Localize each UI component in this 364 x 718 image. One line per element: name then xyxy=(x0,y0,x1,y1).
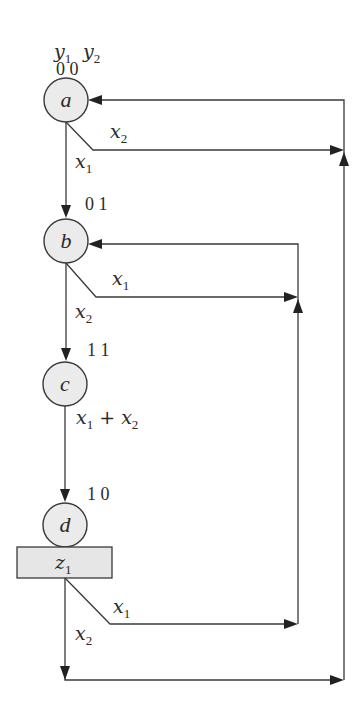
cond-a-x2: x2 xyxy=(110,120,127,146)
state-a-code: 0 0 xyxy=(56,59,79,79)
edge-b-x1 xyxy=(66,263,292,297)
arrow-right-icon xyxy=(284,292,298,302)
header-y2: y2 xyxy=(82,40,100,66)
state-c: c xyxy=(43,362,87,406)
state-c-label: c xyxy=(60,371,70,396)
arrow-down-icon xyxy=(61,348,71,361)
state-d-label: d xyxy=(60,512,72,537)
cond-a-b: x1 xyxy=(75,150,92,176)
arrow-left-icon xyxy=(88,239,102,249)
cond-b-c: x2 xyxy=(75,300,92,326)
state-d-code: 1 0 xyxy=(87,484,110,504)
edge-a-x2 xyxy=(66,122,338,150)
cond-d-a: x2 xyxy=(75,622,92,648)
asm-diagram: y1 y2 0 0 a x1 x2 0 1 b x2 x1 1 1 c x1+x… xyxy=(0,0,364,718)
arrow-down-icon xyxy=(60,666,70,680)
cond-c-d: x1+x2 xyxy=(76,406,138,432)
return-rail-b xyxy=(94,244,298,624)
edge-d-a xyxy=(65,578,338,680)
state-b: b xyxy=(44,219,88,263)
state-d: d xyxy=(43,503,87,547)
output-box-z1: z1 xyxy=(17,547,112,578)
arrow-up-icon xyxy=(339,152,349,166)
state-c-code: 1 1 xyxy=(87,340,110,360)
arrow-right-icon xyxy=(330,675,344,685)
state-a-label: a xyxy=(61,87,72,112)
cond-b-x1: x1 xyxy=(112,267,129,293)
arrow-right-icon xyxy=(284,619,298,629)
arrow-down-icon xyxy=(60,489,70,502)
arrow-right-icon xyxy=(330,145,344,155)
edge-d-b xyxy=(65,578,292,624)
state-a: a xyxy=(44,78,88,122)
cond-d-b: x1 xyxy=(113,595,130,621)
arrow-up-icon xyxy=(293,299,303,313)
state-b-code: 0 1 xyxy=(85,194,108,214)
arrow-left-icon xyxy=(88,95,102,105)
arrow-down-icon xyxy=(61,205,71,218)
state-b-label: b xyxy=(61,228,72,253)
return-rail-a xyxy=(94,100,344,680)
